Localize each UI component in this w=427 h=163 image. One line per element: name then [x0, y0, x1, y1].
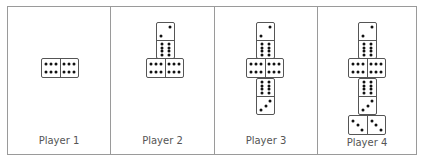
pip-dot [73, 63, 76, 66]
tile-half [349, 116, 367, 134]
pip-dot [167, 53, 170, 56]
pip-dot [380, 63, 383, 66]
pip-dot [370, 26, 373, 29]
pip-dot [54, 70, 57, 73]
pip-dot [356, 70, 359, 73]
pip-dot [160, 34, 163, 37]
pip-dot [254, 70, 257, 73]
pip-dot [260, 34, 263, 37]
tile-half [147, 59, 165, 77]
pip-dot [267, 91, 270, 94]
pip-dot [380, 70, 383, 73]
tile-half [157, 23, 174, 40]
panel-player-1: Player 1 [8, 7, 111, 154]
domino-tile-8-3 [358, 78, 377, 115]
pip-dot [352, 119, 355, 122]
pip-dot [370, 63, 373, 66]
pip-dot [173, 70, 176, 73]
pip-dot [361, 63, 364, 66]
domino-tile-3-3 [348, 115, 386, 135]
pip-dot [375, 124, 378, 127]
tile-half [257, 96, 274, 114]
pip-dot [168, 26, 171, 29]
pip-dot [249, 63, 252, 66]
domino-tile-6-6 [348, 58, 386, 78]
pip-dot [149, 63, 152, 66]
pip-dot [259, 70, 262, 73]
pip-dot [254, 63, 257, 66]
pip-dot [267, 53, 270, 56]
pip-dot [369, 53, 372, 56]
tile-half [359, 23, 376, 40]
pip-dot [168, 63, 171, 66]
pip-dot [168, 70, 171, 73]
tile-half [165, 59, 184, 77]
pip-dot [63, 70, 66, 73]
pip-dot [49, 70, 52, 73]
pip-dot [54, 63, 57, 66]
pip-dot [68, 63, 71, 66]
pip-dot [173, 63, 176, 66]
tile-half [265, 59, 284, 77]
tile-half [257, 23, 274, 40]
panel-player-4: Player 4 [318, 7, 416, 154]
domino-tile-6-6 [246, 58, 284, 78]
domino-board: Player 1 Player 2 Player 3 [7, 6, 417, 155]
pip-dot [178, 70, 181, 73]
pip-dot [268, 26, 271, 29]
pip-dot [264, 104, 267, 107]
pip-dot [356, 63, 359, 66]
tile-half [367, 59, 386, 77]
domino-tile-2-8 [358, 22, 377, 59]
panel-player-2: Player 2 [111, 7, 215, 154]
pip-dot [361, 70, 364, 73]
pip-dot [370, 119, 373, 122]
pip-dot [268, 70, 271, 73]
tile-half [359, 40, 376, 58]
player-label: Player 3 [215, 135, 317, 146]
domino-tile-6-6 [146, 58, 184, 78]
pip-dot [363, 91, 366, 94]
pip-dot [249, 70, 252, 73]
tile-half [257, 79, 274, 96]
tile-half [349, 59, 367, 77]
pip-dot [375, 63, 378, 66]
pip-dot [370, 99, 373, 102]
pip-dot [351, 70, 354, 73]
pip-dot [361, 128, 364, 131]
pip-dot [278, 63, 281, 66]
player-label: Player 1 [8, 135, 110, 146]
pip-dot [273, 70, 276, 73]
tile-half [60, 59, 79, 77]
pip-dot [261, 53, 264, 56]
pip-dot [375, 70, 378, 73]
pip-dot [154, 63, 157, 66]
pip-dot [154, 70, 157, 73]
pip-dot [379, 128, 382, 131]
pip-dot [261, 91, 264, 94]
pip-dot [260, 109, 263, 112]
pip-dot [178, 63, 181, 66]
pip-dot [362, 109, 365, 112]
pip-dot [49, 63, 52, 66]
pip-dot [363, 53, 366, 56]
domino-tile-6-6 [41, 58, 79, 78]
pip-dot [159, 63, 162, 66]
pip-dot [161, 53, 164, 56]
pip-dot [68, 70, 71, 73]
pip-dot [44, 70, 47, 73]
tile-half [257, 40, 274, 58]
pip-dot [259, 63, 262, 66]
pip-dot [356, 124, 359, 127]
pip-dot [159, 70, 162, 73]
pip-dot [278, 70, 281, 73]
tile-half [359, 96, 376, 114]
pip-dot [268, 63, 271, 66]
pip-dot [370, 70, 373, 73]
pip-dot [149, 70, 152, 73]
tile-half [42, 59, 60, 77]
domino-tile-8-3 [256, 78, 275, 115]
player-label: Player 4 [318, 137, 416, 148]
tile-half [157, 40, 174, 58]
pip-dot [273, 63, 276, 66]
